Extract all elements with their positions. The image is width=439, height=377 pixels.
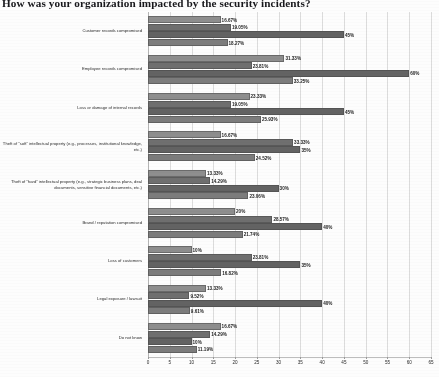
bar: 40% bbox=[148, 223, 322, 230]
bar-value-label: 33.25% bbox=[294, 78, 310, 83]
bar-value-label: 13.33% bbox=[207, 286, 223, 291]
bar-value-label: 25.93% bbox=[262, 117, 278, 122]
bar-group: Do not know16.67%14.29%10%11.19% bbox=[148, 319, 431, 357]
bar-row: 30% bbox=[148, 185, 431, 192]
category-label: Loss of customers bbox=[2, 258, 142, 263]
plot-area: Customer records compromised16.67%19.05%… bbox=[148, 12, 431, 357]
bar: 60% bbox=[148, 70, 409, 77]
x-tick bbox=[148, 357, 149, 359]
bar: 23.81% bbox=[148, 62, 252, 69]
x-tick bbox=[257, 357, 258, 359]
bar-value-label: 23.81% bbox=[253, 255, 269, 260]
bar-row: 45% bbox=[148, 31, 431, 38]
category-label: Do not know bbox=[2, 335, 142, 340]
bar: 28.57% bbox=[148, 216, 272, 223]
x-tick-label: 65 bbox=[428, 360, 433, 365]
bar-row: 24.52% bbox=[148, 154, 431, 161]
x-tick-label: 30 bbox=[276, 360, 281, 365]
bar: 18.27% bbox=[148, 39, 228, 46]
bar: 9.52% bbox=[148, 292, 189, 299]
bar-value-label: 19.05% bbox=[232, 102, 248, 107]
bar-row: 40% bbox=[148, 300, 431, 307]
bar-row: 10% bbox=[148, 338, 431, 345]
bar-value-label: 24.52% bbox=[256, 155, 272, 160]
bar-value-label: 16.67% bbox=[222, 324, 238, 329]
bar-value-label: 9.61% bbox=[191, 308, 204, 313]
bar: 21.74% bbox=[148, 231, 243, 238]
bar-row: 18.27% bbox=[148, 39, 431, 46]
bar-value-label: 14.29% bbox=[211, 332, 227, 337]
bar-row: 45% bbox=[148, 108, 431, 115]
bar: 31.33% bbox=[148, 55, 284, 62]
bar-row: 23.81% bbox=[148, 254, 431, 261]
bar-value-label: 60% bbox=[410, 71, 419, 76]
bar-row: 16.67% bbox=[148, 16, 431, 23]
bar-value-label: 11.19% bbox=[198, 347, 213, 352]
x-axis-line bbox=[148, 357, 431, 358]
bar-value-label: 23.33% bbox=[251, 94, 267, 99]
bar-row: 25.93% bbox=[148, 116, 431, 123]
bar-group: Brand / reputation compromised20%28.57%4… bbox=[148, 204, 431, 242]
x-tick-label: 20 bbox=[233, 360, 238, 365]
bar-value-label: 18.27% bbox=[229, 40, 245, 45]
x-tick bbox=[322, 357, 323, 359]
bar-value-label: 31.33% bbox=[285, 56, 301, 61]
bar-row: 16.82% bbox=[148, 269, 431, 276]
bar: 24.52% bbox=[148, 154, 255, 161]
category-label: Theft of "hard" intellectual property (e… bbox=[2, 179, 142, 190]
x-tick-label: 50 bbox=[363, 360, 368, 365]
bar-value-label: 45% bbox=[345, 109, 354, 114]
x-tick bbox=[366, 357, 367, 359]
bar: 35% bbox=[148, 146, 300, 153]
bar: 10% bbox=[148, 338, 192, 345]
bar-value-label: 9.52% bbox=[190, 293, 203, 298]
bar-value-label: 20% bbox=[236, 209, 245, 214]
bar-row: 14.29% bbox=[148, 177, 431, 184]
bar-value-label: 10% bbox=[193, 339, 202, 344]
bar-row: 9.52% bbox=[148, 292, 431, 299]
x-tick-label: 0 bbox=[147, 360, 150, 365]
bar: 16.67% bbox=[148, 131, 221, 138]
bar-row: 19.05% bbox=[148, 101, 431, 108]
bar-value-label: 16.67% bbox=[222, 132, 238, 137]
bar-row: 13.33% bbox=[148, 170, 431, 177]
bar: 23.33% bbox=[148, 93, 250, 100]
bar-value-label: 14.29% bbox=[211, 178, 227, 183]
bar-row: 35% bbox=[148, 146, 431, 153]
bar-row: 11.19% bbox=[148, 346, 431, 353]
x-tick-label: 5 bbox=[168, 360, 171, 365]
bar-value-label: 16.67% bbox=[222, 17, 238, 22]
x-tick bbox=[192, 357, 193, 359]
bar: 16.67% bbox=[148, 16, 221, 23]
bar-row: 23.06% bbox=[148, 192, 431, 199]
bar: 9.61% bbox=[148, 307, 190, 314]
category-label: Brand / reputation compromised bbox=[2, 220, 142, 225]
bar: 11.19% bbox=[148, 346, 197, 353]
bar: 16.82% bbox=[148, 269, 221, 276]
bar-row: 16.67% bbox=[148, 131, 431, 138]
x-tick-label: 35 bbox=[298, 360, 303, 365]
bar-row: 10% bbox=[148, 246, 431, 253]
bar-value-label: 23.81% bbox=[253, 63, 269, 68]
bar-value-label: 21.74% bbox=[244, 232, 260, 237]
bar-row: 40% bbox=[148, 223, 431, 230]
bar-group: Loss of customers10%23.81%35%16.82% bbox=[148, 242, 431, 280]
bar: 10% bbox=[148, 246, 192, 253]
bar: 14.29% bbox=[148, 177, 210, 184]
x-tick-label: 10 bbox=[189, 360, 194, 365]
category-label: Employee records compromised bbox=[2, 67, 142, 72]
bar: 23.06% bbox=[148, 192, 248, 199]
x-tick bbox=[409, 357, 410, 359]
x-tick bbox=[213, 357, 214, 359]
category-label: Customer records compromised bbox=[2, 28, 142, 33]
bar: 20% bbox=[148, 208, 235, 215]
bar: 19.05% bbox=[148, 101, 231, 108]
bar: 35% bbox=[148, 261, 300, 268]
bar-group: Theft of "soft" intellectual property (e… bbox=[148, 127, 431, 165]
bar-row: 13.33% bbox=[148, 285, 431, 292]
bar: 45% bbox=[148, 31, 344, 38]
x-tick-label: 15 bbox=[211, 360, 216, 365]
x-tick-label: 25 bbox=[254, 360, 259, 365]
bar-value-label: 10% bbox=[193, 247, 202, 252]
gridline bbox=[431, 12, 432, 357]
